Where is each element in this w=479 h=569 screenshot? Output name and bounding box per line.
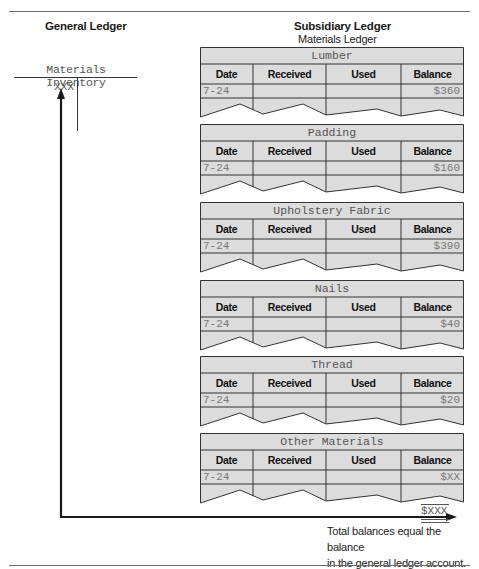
entry-balance: $390	[434, 239, 460, 253]
total-note-line2: in the general ledger account.	[327, 555, 479, 569]
column-header-used: Used	[326, 141, 401, 161]
arrow-up-head-icon	[57, 88, 65, 99]
ledger-card-title: Thread	[200, 356, 464, 373]
bottom-rule	[9, 565, 470, 566]
ledger-card-title: Other Materials	[200, 433, 464, 450]
ledger-card-title: Upholstery Fabric	[200, 202, 464, 219]
column-header-balance: Balance	[401, 373, 464, 393]
total-amount: $XXX	[421, 505, 447, 517]
ledger-card-title: Padding	[200, 124, 464, 141]
total-note: Total balances equal the balance in the …	[327, 523, 479, 569]
total-note-line1: Total balances equal the balance	[327, 523, 479, 555]
column-header-date: Date	[200, 450, 253, 470]
column-header-used: Used	[326, 450, 401, 470]
entry-date: 7-24	[203, 393, 229, 407]
column-header-used: Used	[326, 373, 401, 393]
total-underline-top	[421, 504, 449, 505]
entry-date: 7-24	[203, 84, 229, 98]
entry-balance: $360	[434, 84, 460, 98]
column-header-balance: Balance	[401, 450, 464, 470]
column-header-balance: Balance	[401, 219, 464, 239]
ledger-card-nails: NailsDateReceivedUsedBalance7-24$40	[200, 280, 464, 352]
column-header-received: Received	[253, 219, 326, 239]
ledger-card-thread: ThreadDateReceivedUsedBalance7-24$20	[200, 356, 464, 428]
entry-date: 7-24	[203, 470, 229, 484]
ledger-card-other-materials: Other MaterialsDateReceivedUsedBalance7-…	[200, 433, 464, 505]
column-header-date: Date	[200, 373, 253, 393]
entry-date: 7-24	[203, 239, 229, 253]
ledger-card-title: Nails	[200, 280, 464, 297]
ledger-card-title: Lumber	[200, 47, 464, 64]
column-header-received: Received	[253, 373, 326, 393]
column-header-balance: Balance	[401, 141, 464, 161]
column-header-date: Date	[200, 297, 253, 317]
column-header-balance: Balance	[401, 297, 464, 317]
column-header-received: Received	[253, 64, 326, 84]
ledger-card-upholstery-fabric: Upholstery FabricDateReceivedUsedBalance…	[200, 202, 464, 274]
column-header-used: Used	[326, 219, 401, 239]
column-header-received: Received	[253, 450, 326, 470]
entry-balance: $160	[434, 161, 460, 175]
column-header-date: Date	[200, 219, 253, 239]
entry-balance: $40	[440, 317, 460, 331]
column-header-date: Date	[200, 141, 253, 161]
entry-balance: $20	[440, 393, 460, 407]
entry-date: 7-24	[203, 161, 229, 175]
column-header-date: Date	[200, 64, 253, 84]
column-header-used: Used	[326, 297, 401, 317]
column-header-received: Received	[253, 297, 326, 317]
ledger-card-padding: PaddingDateReceivedUsedBalance7-24$160	[200, 124, 464, 196]
entry-balance: $XX	[440, 470, 460, 484]
entry-date: 7-24	[203, 317, 229, 331]
column-header-received: Received	[253, 141, 326, 161]
column-header-used: Used	[326, 64, 401, 84]
ledger-card-lumber: LumberDateReceivedUsedBalance7-24$360	[200, 47, 464, 119]
column-header-balance: Balance	[401, 64, 464, 84]
